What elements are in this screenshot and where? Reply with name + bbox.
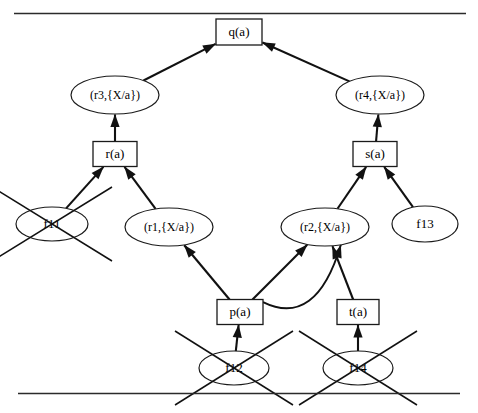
node-box-shape: [216, 19, 262, 45]
edge-arrowhead: [355, 167, 366, 180]
node-box-shape: [93, 142, 137, 167]
edge-f13-to-s: [384, 167, 413, 208]
node-ellipse-shape: [125, 208, 213, 246]
node-q[interactable]: q(a): [216, 19, 262, 45]
node-f13[interactable]: f13: [392, 206, 458, 242]
edge-f14-to-t: [353, 325, 362, 352]
node-r[interactable]: r(a): [93, 142, 137, 167]
edge-f11-to-r: [66, 167, 104, 209]
node-box-shape: [217, 300, 263, 325]
node-f11[interactable]: f11: [0, 187, 112, 261]
proof-tree-graph: q(a)(r3,{X/a})(r4,{X/a})r(a)s(a)f11(r1,{…: [0, 0, 478, 413]
node-ellipse-shape: [71, 76, 159, 114]
edge-arrowhead: [202, 44, 216, 54]
edge-t-to-r2: [332, 246, 353, 300]
edge-r3-to-q: [143, 44, 216, 81]
edge-p-to-r1: [184, 245, 230, 300]
edge-arrowhead: [353, 325, 362, 338]
figure-canvas: q(a)(r3,{X/a})(r4,{X/a})r(a)s(a)f11(r1,{…: [0, 0, 478, 413]
edge-r1-to-r: [124, 167, 155, 209]
node-t[interactable]: t(a): [337, 300, 379, 325]
edge-p-to-r2: [253, 244, 308, 299]
edge-arrowhead: [110, 114, 119, 127]
node-s[interactable]: s(a): [353, 142, 397, 167]
edge-s-to-r4: [373, 114, 382, 142]
edge-r4-to-q: [262, 42, 349, 81]
node-ellipse-shape: [281, 208, 369, 246]
edge-arrowhead: [384, 167, 395, 180]
edge-arrowhead: [233, 325, 242, 338]
node-r2[interactable]: (r2,{X/a}): [281, 208, 369, 246]
edge-arrowhead: [124, 167, 135, 180]
edge-line-path: [262, 42, 349, 81]
nodes-layer: q(a)(r3,{X/a})(r4,{X/a})r(a)s(a)f11(r1,{…: [0, 19, 458, 405]
edge-arrowhead: [262, 42, 276, 52]
node-ellipse-shape: [392, 206, 458, 242]
edge-r2-to-s: [337, 167, 366, 209]
node-box-shape: [337, 300, 379, 325]
node-r4[interactable]: (r4,{X/a}): [336, 76, 424, 114]
node-r3[interactable]: (r3,{X/a}): [71, 76, 159, 114]
node-p[interactable]: p(a): [217, 300, 263, 325]
node-ellipse-shape: [336, 76, 424, 114]
node-r1[interactable]: (r1,{X/a}): [125, 208, 213, 246]
edge-f12-to-p: [233, 325, 242, 352]
node-box-shape: [353, 142, 397, 167]
edge-r-to-r3: [110, 114, 119, 142]
